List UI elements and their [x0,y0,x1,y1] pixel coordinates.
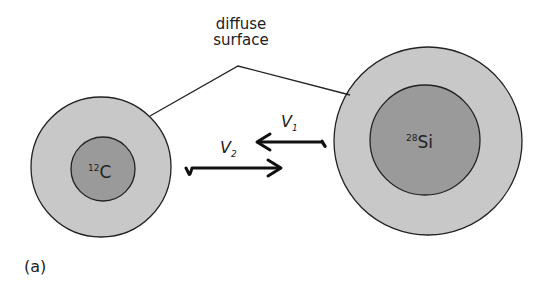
silicon-label: 28Si [406,129,433,151]
carbon-label: 12C [88,159,111,181]
silicon-mass: 28 [406,133,417,143]
carbon-mass: 12 [88,163,99,173]
label-line-1: diffuse [196,16,286,32]
v1-label: V1 [281,113,298,137]
diffuse-surface-label: diffuse surface [196,16,286,48]
panel-label: (a) [24,258,46,276]
carbon-symbol: C [99,162,111,182]
leader-line [150,66,350,116]
silicon-symbol: Si [417,132,433,152]
v2-label: V2 [220,139,237,163]
v1-subscript: 1 [292,123,298,133]
label-line-2: surface [196,32,286,48]
v2-symbol: V [220,138,231,157]
v2-subscript: 2 [231,149,237,159]
v1-symbol: V [281,112,292,131]
